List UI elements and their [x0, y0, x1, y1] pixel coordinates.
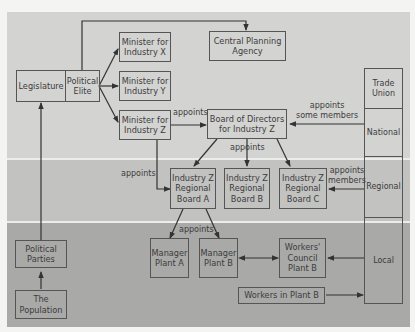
label-board-appoints-regional: appoints — [230, 143, 265, 153]
trade-union-title: Trade Union — [364, 68, 403, 109]
manager-plant-b-box: Manager Plant B — [199, 238, 238, 278]
label-minister-appoints-board: appoints — [173, 108, 208, 118]
label-regional-appoints-managers: appoints — [179, 225, 214, 235]
label-union-appoints-some-members: appoints some members — [296, 101, 358, 120]
manager-plant-a-box: Manager Plant A — [150, 238, 189, 278]
political-elite-box: Political Elite — [65, 70, 100, 102]
workers-council-box: Workers' Council Plant B — [279, 238, 326, 278]
minister-y-box: Minister for Industry Y — [119, 71, 171, 101]
label-union-appoints-members: appoints members — [328, 166, 366, 185]
regional-board-b-box: Industry Z Regional Board B — [224, 168, 270, 209]
trade-union-local: Local — [364, 217, 403, 304]
trade-union-regional: Regional — [364, 156, 403, 218]
political-parties-box: Political Parties — [15, 240, 67, 268]
minister-z-box: Minister for Industry Z — [119, 110, 171, 140]
regional-board-a-box: Industry Z Regional Board A — [170, 168, 216, 209]
trade-union-national: National — [364, 108, 403, 157]
board-of-directors-box: Board of Directors for Industry Z — [207, 109, 287, 139]
central-planning-agency-box: Central Planning Agency — [209, 31, 286, 61]
minister-x-box: Minister for Industry X — [119, 32, 171, 62]
regional-board-c-box: Industry Z Regional Board C — [279, 168, 327, 209]
workers-in-plant-b-box: Workers in Plant B — [238, 287, 325, 304]
label-minister-appoints-regional-a: appoints — [121, 169, 156, 179]
population-box: The Population — [15, 290, 67, 319]
legislature-box: Legislature — [16, 70, 66, 102]
